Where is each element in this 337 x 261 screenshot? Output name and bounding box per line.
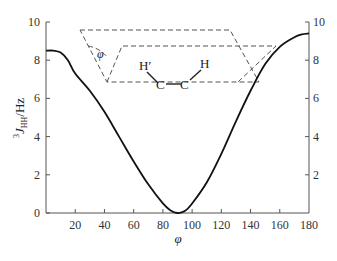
y-tick-label-left: 10 [28, 15, 40, 29]
atom-c2: C [180, 77, 189, 92]
atom-h: H [200, 56, 209, 71]
dihedral-inset [80, 30, 276, 82]
svg-text:3JHH/Hz: 3JHH/Hz [12, 98, 29, 138]
x-tick-label: 120 [212, 218, 230, 232]
x-axis-label: φ [174, 231, 181, 246]
atom-h-prime: H′ [139, 58, 151, 73]
y-tick-label-left: 2 [34, 168, 40, 182]
y-tick-label-right: 4 [313, 130, 319, 144]
y-tick-label-right: 8 [313, 53, 319, 67]
plane-front [107, 46, 276, 82]
plane-back [80, 30, 259, 82]
axis-ticks: 204060801001201401601800246810246810 [28, 15, 325, 232]
y-tick-label-left: 6 [34, 91, 40, 105]
y-tick-label-right: 10 [313, 15, 325, 29]
angle-phi-label: φ [97, 47, 104, 61]
karplus-chart: 204060801001201401601800246810246810 3JH… [0, 0, 337, 261]
y-tick-label-right: 2 [313, 168, 319, 182]
x-tick-label: 140 [242, 218, 260, 232]
x-tick-label: 80 [157, 218, 169, 232]
y-axis-label: 3JHH/Hz [12, 98, 29, 138]
x-tick-label: 60 [128, 218, 140, 232]
x-tick-label: 100 [183, 218, 201, 232]
y-tick-label-right: 6 [313, 91, 319, 105]
y-tick-label-left: 4 [34, 130, 40, 144]
x-tick-label: 160 [271, 218, 289, 232]
karplus-curve [46, 33, 309, 213]
x-tick-label: 20 [69, 218, 81, 232]
bond-c-h [190, 70, 201, 80]
x-tick-label: 180 [300, 218, 318, 232]
y-tick-label-left: 8 [34, 53, 40, 67]
atom-c1: C [156, 77, 165, 92]
y-tick-label-left: 0 [34, 206, 40, 220]
x-tick-label: 40 [98, 218, 110, 232]
